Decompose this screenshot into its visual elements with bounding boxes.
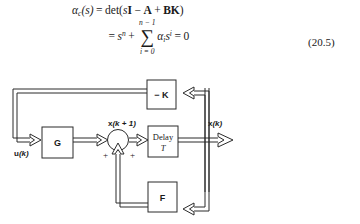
wire-f-to-sum-outer [116, 154, 148, 203]
arrowhead-into-f [183, 203, 194, 215]
summation-upper-limit: n − 1 [137, 19, 157, 27]
delay-label: Delay [153, 132, 174, 142]
plant-g-label: G [54, 138, 61, 148]
alpha-argument: (s) [81, 4, 93, 16]
feedback-f-label: F [160, 193, 166, 203]
summation-lower-limit: i = 0 [137, 48, 157, 56]
zero-value: 0 [183, 30, 189, 42]
equation-line-1: αc(s)=det(sI−A+BK) [72, 5, 184, 17]
matrix-A: A [143, 4, 151, 16]
arrowhead-into-k [183, 87, 194, 99]
summation-operator: n − 1∑i = 0 [137, 30, 157, 44]
det-operator: det( [105, 4, 123, 16]
plus-sign-1: + [152, 4, 164, 16]
wire-k-to-input-outer [13, 89, 147, 138]
minus-sign: − [132, 4, 144, 16]
gain-k-label: − K [154, 90, 169, 100]
sigma-icon: ∑ [137, 30, 157, 44]
block-diagram: − K G u(k) + + x(k + 1) [0, 62, 360, 224]
page-root: αc(s)=det(sI−A+BK) =sn+n − 1∑i = 0αisi=0… [0, 0, 360, 224]
equation-line-2: =sn+n − 1∑i = 0αisi=0 [106, 30, 189, 44]
equation-number: (20.5) [308, 36, 335, 48]
wire-state-to-f-outer [194, 88, 205, 207]
equals-sign-1: = [94, 4, 106, 16]
plus-sign-2: + [126, 30, 138, 42]
sum-plus-right: + [130, 150, 135, 160]
input-signal-label: u(k) [14, 149, 29, 158]
equals-sign-2: = [106, 30, 118, 42]
state-output-label: x(k) [208, 119, 223, 128]
close-paren-1: ) [180, 4, 184, 16]
arrowhead-into-delay [137, 134, 148, 146]
state-next-label: x(k + 1) [108, 119, 136, 128]
wire-state-to-k-outer [194, 95, 205, 192]
matrix-BK: BK [163, 4, 180, 16]
sum-plus-left: + [103, 150, 108, 160]
arrowhead-into-sum [97, 134, 108, 146]
equation-block: αc(s)=det(sI−A+BK) =sn+n − 1∑i = 0αisi=0… [0, 0, 360, 62]
arrowhead-into-g [30, 134, 41, 146]
equals-sign-3: = [172, 30, 184, 42]
wire-state-to-f-inner [194, 88, 209, 211]
arrowhead-state-output [218, 133, 233, 147]
wire-f-to-sum-inner [120, 154, 148, 207]
